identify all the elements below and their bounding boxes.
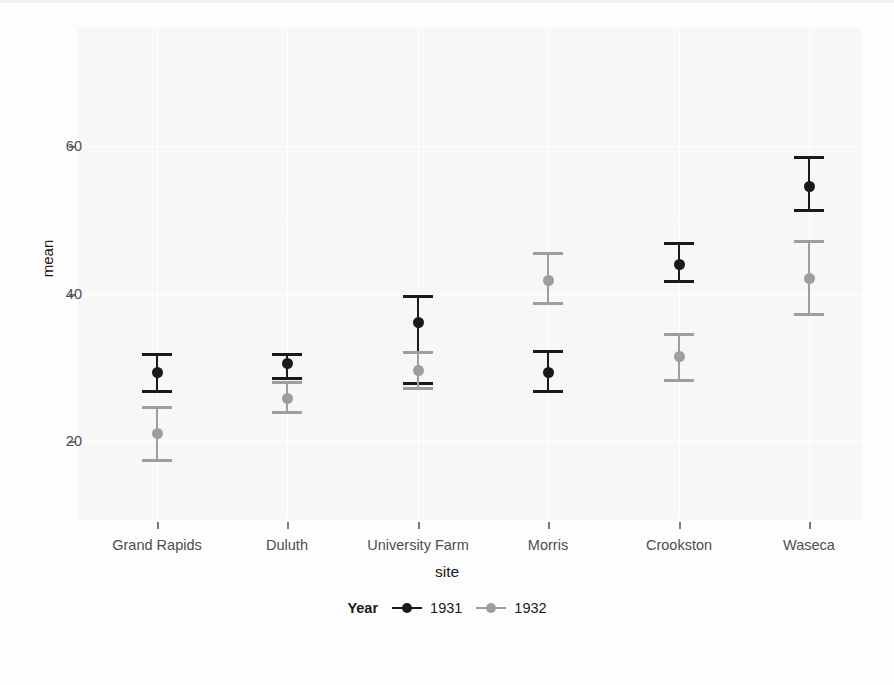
chart-figure: 60 40 20 mean site Grand Rapids Duluth U… — [0, 0, 894, 685]
x-tick-mark-4 — [679, 522, 681, 529]
gridline-major-x-1 — [287, 28, 288, 520]
legend-title: Year — [347, 600, 378, 616]
gridline-major-y — [78, 146, 862, 147]
figure-top-edge — [0, 0, 894, 3]
x-axis-title: site — [0, 563, 894, 581]
x-tick-mark-5 — [809, 522, 811, 529]
data-point-1931-grand-rapids — [152, 367, 163, 378]
data-point-1932-duluth — [282, 393, 293, 404]
x-tick-label-morris: Morris — [528, 537, 568, 553]
x-tick-label-duluth: Duluth — [266, 537, 308, 553]
data-point-1931-duluth — [282, 358, 293, 369]
x-tick-mark-1 — [287, 522, 289, 529]
plot-panel — [78, 28, 862, 520]
data-point-1932-university-farm — [413, 365, 424, 376]
gridline-major-y — [78, 441, 862, 442]
legend-key-1931[interactable]: 1931 — [392, 600, 462, 616]
data-point-1932-grand-rapids — [152, 428, 163, 439]
data-point-1932-waseca — [804, 273, 815, 284]
x-tick-mark-0 — [157, 522, 159, 529]
x-tick-label-grand-rapids: Grand Rapids — [112, 537, 201, 553]
data-point-1931-crookston — [674, 259, 685, 270]
data-point-1932-morris — [543, 275, 554, 286]
data-point-1931-morris — [543, 367, 554, 378]
y-tick-label-60: 60 — [22, 139, 82, 154]
data-point-1931-university-farm — [413, 317, 424, 328]
y-axis-title: mean — [39, 204, 56, 314]
legend-label-1932: 1932 — [514, 600, 546, 616]
x-tick-label-waseca: Waseca — [783, 537, 835, 553]
y-tick-label-20: 20 — [22, 434, 82, 449]
legend-glyph-1931 — [392, 600, 422, 616]
data-point-1932-crookston — [674, 351, 685, 362]
data-point-1931-waseca — [804, 181, 815, 192]
gridline-major-x-2 — [418, 28, 419, 520]
gridline-minor-y — [78, 367, 862, 368]
gridline-major-y — [78, 294, 862, 295]
gridline-minor-y — [78, 220, 862, 221]
legend-glyph-1932 — [476, 600, 506, 616]
legend-label-1931: 1931 — [430, 600, 462, 616]
x-tick-label-university-farm: University Farm — [367, 537, 469, 553]
x-tick-label-crookston: Crookston — [646, 537, 712, 553]
legend: Year 1931 1932 — [0, 600, 894, 616]
gridline-minor-y — [78, 515, 862, 516]
legend-key-1932[interactable]: 1932 — [476, 600, 546, 616]
x-tick-mark-2 — [418, 522, 420, 529]
x-tick-mark-3 — [548, 522, 550, 529]
